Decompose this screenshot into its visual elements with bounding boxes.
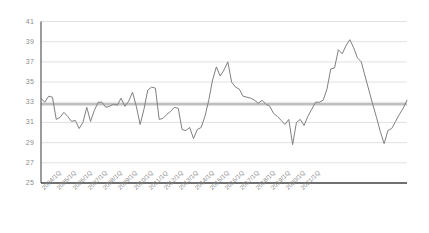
y-axis-tick-label: 27	[12, 159, 34, 167]
y-axis-tick-label: 25	[12, 179, 34, 187]
chart-container: 413937353331292725 2004/1Q2005/1Q2006/1Q…	[0, 0, 429, 233]
line-chart-canvas	[0, 0, 429, 233]
data-series-line	[41, 40, 407, 145]
y-axis-tick-label: 39	[12, 38, 34, 46]
y-axis-tick-label: 33	[12, 98, 34, 106]
y-axis-tick-label: 37	[12, 58, 34, 66]
y-axis-tick-label: 29	[12, 139, 34, 147]
y-axis-tick-label: 41	[12, 18, 34, 26]
y-axis-tick-label: 35	[12, 78, 34, 86]
y-axis-tick-label: 31	[12, 118, 34, 126]
